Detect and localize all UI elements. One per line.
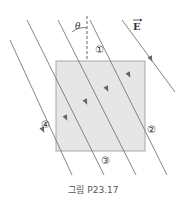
field-label: E <box>133 21 141 32</box>
vector-arrow-head <box>140 19 143 22</box>
figure-caption: 그림 P23.17 <box>0 183 187 196</box>
region-label-3: ③ <box>101 155 110 166</box>
region-label-1: ① <box>95 44 104 55</box>
region-label-4: ④ <box>41 119 50 130</box>
angle-label: θ <box>75 21 81 31</box>
region-label-2: ② <box>147 124 156 135</box>
electric-field-diagram: θ E ① ② ③ ④ <box>0 0 187 198</box>
